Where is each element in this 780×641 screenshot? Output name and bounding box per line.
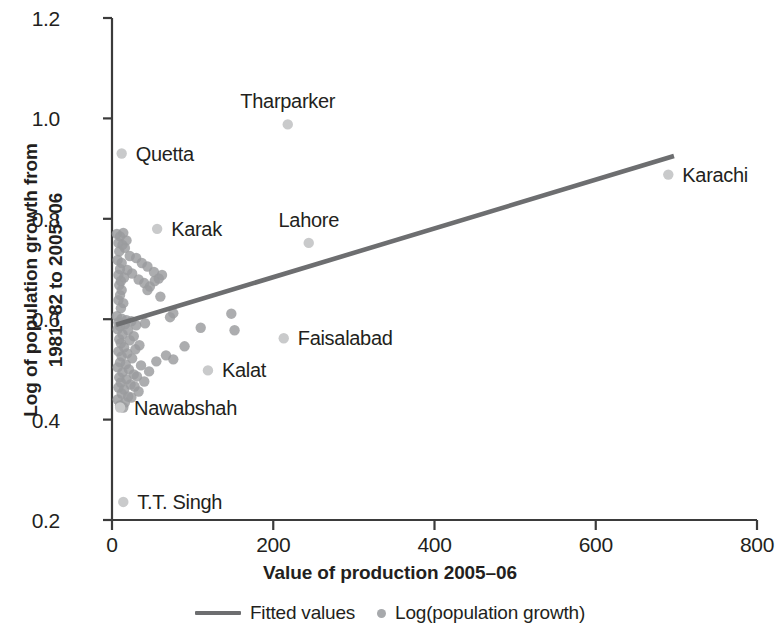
annotated-points-group: QuettaTharparkerKarachiKarakLahoreFaisal… <box>115 90 748 513</box>
dot-swatch-icon <box>377 609 386 618</box>
fitted-line <box>116 156 674 325</box>
point-label: Nawabshah <box>134 397 237 419</box>
data-point <box>226 308 236 318</box>
point-label: Faisalabad <box>298 327 393 349</box>
annotated-data-point <box>663 169 673 179</box>
data-point <box>144 366 154 376</box>
point-label: Quetta <box>136 143 195 165</box>
data-point <box>139 376 149 386</box>
legend-item-fitted-values: Fitted values <box>195 602 355 624</box>
data-point <box>151 356 161 366</box>
legend-label-log-population-growth: Log(population growth) <box>395 602 585 624</box>
data-point <box>168 354 178 364</box>
annotated-data-point <box>279 333 289 343</box>
line-swatch-icon <box>195 611 241 615</box>
point-label: Tharparker <box>240 90 335 112</box>
annotated-data-point <box>203 365 213 375</box>
annotated-data-point <box>152 224 162 234</box>
annotated-data-point <box>116 148 126 158</box>
data-point <box>155 291 165 301</box>
x-axis-title: Value of production 2005–06 <box>0 562 780 584</box>
chart-legend: Fitted values Log(population growth) <box>0 602 780 624</box>
data-point <box>142 285 152 295</box>
data-point <box>140 318 150 328</box>
point-label: Karak <box>171 218 223 240</box>
annotated-data-point <box>304 238 314 248</box>
annotated-data-point <box>118 497 128 507</box>
point-label: T.T. Singh <box>137 491 222 513</box>
point-label: Karachi <box>682 164 748 186</box>
data-point <box>157 270 167 280</box>
legend-label-fitted-values: Fitted values <box>250 602 355 624</box>
plot-area: QuettaTharparkerKarachiKarakLahoreFaisal… <box>0 0 780 641</box>
legend-item-log-population-growth: Log(population growth) <box>377 602 585 624</box>
data-point <box>179 341 189 351</box>
data-point <box>195 323 205 333</box>
annotated-data-point <box>283 119 293 129</box>
point-label: Lahore <box>278 209 339 231</box>
annotated-data-point <box>115 402 125 412</box>
data-point <box>229 325 239 335</box>
scatter-chart-figure: Log of population growth from 1981–82 to… <box>0 0 780 641</box>
point-label: Kalat <box>222 359 267 381</box>
